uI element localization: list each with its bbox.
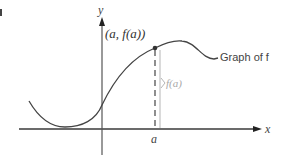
y-axis-label: y [97,3,104,17]
corner-tag [0,9,2,16]
point-label: (a, f(a)) [105,26,145,41]
brace-icon [161,78,165,88]
x-axis-label: x [264,122,271,136]
function-graph-diagram: x y f(a) (a, f(a)) a Graph of f [0,0,285,162]
height-label: f(a) [166,77,182,90]
point-marker [153,46,158,51]
y-axis-arrow-icon [99,17,105,26]
x-axis-arrow-icon [253,126,262,132]
x-tick-label-a: a [151,132,157,146]
function-curve [29,41,218,127]
curve-label: Graph of f [220,51,270,63]
